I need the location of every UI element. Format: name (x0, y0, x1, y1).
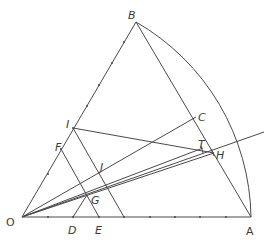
label-T: T (198, 138, 206, 151)
segment-IH (73, 128, 214, 153)
label-G: G (91, 194, 100, 207)
label-B: B (128, 9, 136, 22)
label-A: A (246, 225, 254, 238)
segment-OB (22, 22, 136, 217)
label-D: D (68, 224, 76, 237)
label-H: H (216, 149, 224, 162)
label-C: C (198, 111, 206, 124)
label-F: F (55, 141, 62, 154)
label-E: E (95, 224, 102, 237)
segment-OT (22, 148, 203, 217)
segment-OC (22, 117, 196, 217)
segment-BA (136, 22, 251, 217)
label-I: I (66, 118, 69, 131)
geometric-diagram: O A B C I F D E G J T H (0, 0, 278, 248)
label-O: O (6, 216, 15, 229)
